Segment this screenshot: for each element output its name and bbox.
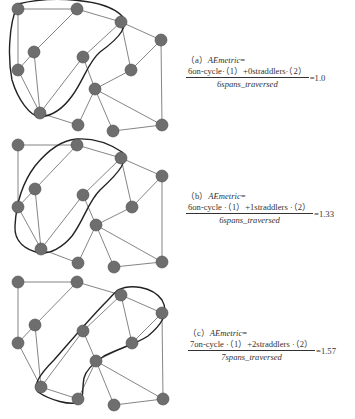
result-value: =1.57 (316, 345, 336, 357)
graph-panel-a (0, 0, 180, 140)
numerator: 6on-cycle·（1）+0straddlers·（2） (186, 66, 309, 79)
panel-label: （a） (186, 55, 208, 65)
numerator: 7on-cycle ·（1）+2straddlers ·（2） (188, 339, 315, 352)
fraction: 6on-cycle ·（1）+1straddlers ·（2） 6spans_t… (186, 202, 313, 226)
formula-panel-b: （b）AEmetric= 6on-cycle ·（1）+1straddlers … (186, 191, 334, 226)
metric-name: AEmetric (208, 55, 240, 65)
result-value: =1.0 (310, 72, 326, 84)
fraction: 7on-cycle ·（1）+2straddlers ·（2） 7spans_t… (188, 339, 315, 363)
metric-name: AEmetric (210, 328, 242, 338)
equals-sign: = (242, 328, 247, 338)
numerator: 6on-cycle ·（1）+1straddlers ·（2） (186, 202, 313, 215)
formula-panel-c: （c）AEmetric= 7on-cycle ·（1）+2straddlers … (188, 328, 336, 363)
graph-panel-c (0, 274, 180, 419)
result-value: =1.33 (314, 208, 334, 220)
fraction: 6on-cycle·（1）+0straddlers·（2） 6spans_tra… (186, 66, 309, 90)
denominator: 6spans_traversed (217, 78, 278, 90)
panel-label: （b） (186, 191, 208, 201)
denominator: 6spans_traversed (219, 214, 280, 226)
metric-name: AEmetric (208, 191, 240, 201)
graph-nodes (12, 139, 168, 273)
graph-panel-b (0, 136, 180, 276)
panel-label: （c） (188, 328, 210, 338)
denominator: 7spans_traversed (221, 351, 282, 363)
formula-panel-a: （a）AEmetric= 6on-cycle·（1）+0straddlers·（… (186, 55, 325, 90)
graph-nodes (12, 276, 169, 411)
cycle-outline (15, 139, 124, 253)
equals-sign: = (241, 191, 246, 201)
equals-sign: = (240, 55, 245, 65)
